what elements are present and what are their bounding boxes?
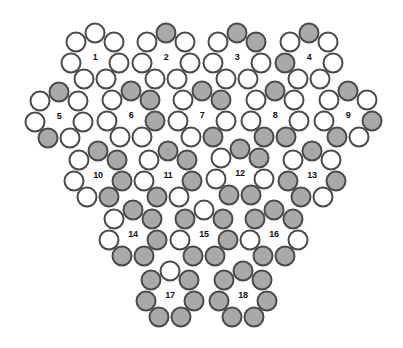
- circle-upper-right-empty: [175, 31, 196, 52]
- circle-lower-left-empty: [110, 127, 131, 148]
- circle-left-empty: [240, 229, 261, 250]
- circle-lower-right-filled: [275, 127, 296, 148]
- circle-upper-right-empty: [318, 31, 339, 52]
- circle-left-empty: [134, 170, 155, 191]
- cluster-label: 7: [200, 110, 205, 120]
- circle-upper-right-filled: [177, 149, 198, 170]
- circle-upper-right-filled: [179, 269, 200, 290]
- circle-upper-right-filled: [213, 208, 234, 229]
- cluster-diagram: 123456789101112131415161718: [0, 0, 403, 348]
- circle-top-filled: [49, 81, 70, 102]
- circle-upper-left-empty: [282, 149, 303, 170]
- circle-upper-left-empty: [65, 31, 86, 52]
- cluster-label: 5: [57, 111, 62, 121]
- circle-lower-right-empty: [59, 128, 80, 149]
- circle-left-filled: [136, 290, 157, 311]
- circle-upper-right-filled: [107, 149, 128, 170]
- circle-lower-right-empty: [168, 187, 189, 208]
- circle-lower-left-empty: [288, 69, 309, 90]
- circle-lower-left-filled: [112, 246, 133, 267]
- circle-lower-left-filled: [291, 187, 312, 208]
- circle-upper-right-filled: [283, 208, 304, 229]
- cluster-label: 12: [235, 168, 244, 178]
- circle-upper-left-empty: [172, 89, 193, 110]
- circle-lower-right-empty: [348, 127, 369, 148]
- circle-left-empty: [203, 52, 224, 73]
- cluster-label: 14: [128, 229, 137, 239]
- circle-lower-right-empty: [166, 69, 187, 90]
- circle-lower-left-filled: [254, 127, 275, 148]
- circle-lower-right-filled: [243, 307, 264, 328]
- circle-left-empty: [314, 110, 335, 131]
- circle-upper-right-empty: [357, 89, 378, 110]
- circle-upper-right-empty: [284, 89, 305, 110]
- circle-left-empty: [25, 111, 46, 132]
- circle-upper-left-empty: [318, 89, 339, 110]
- circle-top-filled: [158, 140, 179, 161]
- circle-top-empty: [194, 199, 215, 220]
- circle-upper-left-filled: [244, 208, 265, 229]
- circle-top-filled: [265, 80, 286, 101]
- circle-lower-left-filled: [219, 185, 240, 206]
- circle-lower-left-filled: [149, 307, 170, 328]
- circle-upper-left-empty: [103, 208, 124, 229]
- circle-lower-left-filled: [327, 127, 348, 148]
- circle-lower-right-filled: [133, 246, 154, 267]
- circle-lower-left-empty: [181, 127, 202, 148]
- circle-top-filled: [230, 138, 251, 159]
- circle-lower-right-empty: [312, 187, 333, 208]
- circle-upper-left-empty: [245, 89, 266, 110]
- cluster-label: 10: [93, 170, 102, 180]
- circle-top-filled: [233, 260, 254, 281]
- circle-lower-left-filled: [147, 187, 168, 208]
- cluster-label: 18: [238, 290, 247, 300]
- cluster-label: 11: [164, 170, 173, 180]
- circle-lower-left-empty: [77, 187, 98, 208]
- circle-lower-left-empty: [216, 69, 237, 90]
- circle-left-empty: [99, 229, 120, 250]
- circle-upper-left-empty: [136, 31, 157, 52]
- circle-upper-left-empty: [138, 149, 159, 170]
- circle-upper-left-empty: [210, 147, 231, 168]
- cluster-label: 6: [129, 110, 134, 120]
- circle-top-filled: [227, 22, 248, 43]
- circle-lower-left-empty: [145, 69, 166, 90]
- circle-top-filled: [123, 199, 144, 220]
- circle-lower-right-filled: [98, 187, 119, 208]
- cluster-label: 17: [165, 290, 174, 300]
- circle-top-filled: [299, 22, 320, 43]
- circle-lower-left-filled: [253, 246, 274, 267]
- circle-left-empty: [64, 170, 85, 191]
- circle-upper-left-filled: [174, 208, 195, 229]
- cluster-label: 9: [346, 110, 351, 120]
- circle-upper-right-empty: [321, 149, 342, 170]
- circle-upper-left-filled: [140, 269, 161, 290]
- circle-lower-right-filled: [202, 127, 223, 148]
- circle-top-filled: [88, 140, 109, 161]
- circle-top-filled: [302, 140, 323, 161]
- circle-left-filled: [275, 52, 296, 73]
- circle-upper-left-empty: [68, 149, 89, 170]
- circle-left-empty: [61, 52, 82, 73]
- cluster-label: 4: [307, 52, 312, 62]
- circle-lower-right-filled: [204, 246, 225, 267]
- cluster-label: 2: [164, 52, 169, 62]
- circle-top-filled: [192, 80, 213, 101]
- circle-upper-right-empty: [68, 90, 89, 111]
- circle-lower-right-empty: [309, 69, 330, 90]
- circle-lower-right-empty: [131, 127, 152, 148]
- circle-upper-right-filled: [252, 269, 273, 290]
- circle-top-filled: [156, 22, 177, 43]
- circle-upper-left-empty: [279, 31, 300, 52]
- circle-upper-left-empty: [29, 90, 50, 111]
- cluster-label: 15: [199, 229, 208, 239]
- circle-top-filled: [338, 80, 359, 101]
- circle-left-empty: [132, 52, 153, 73]
- cluster-label: 1: [93, 52, 98, 62]
- circle-lower-right-empty: [95, 69, 116, 90]
- circle-upper-left-empty: [207, 31, 228, 52]
- circle-upper-right-empty: [104, 31, 125, 52]
- circle-upper-left-empty: [101, 89, 122, 110]
- cluster-label: 16: [269, 229, 278, 239]
- circle-lower-left-filled: [222, 307, 243, 328]
